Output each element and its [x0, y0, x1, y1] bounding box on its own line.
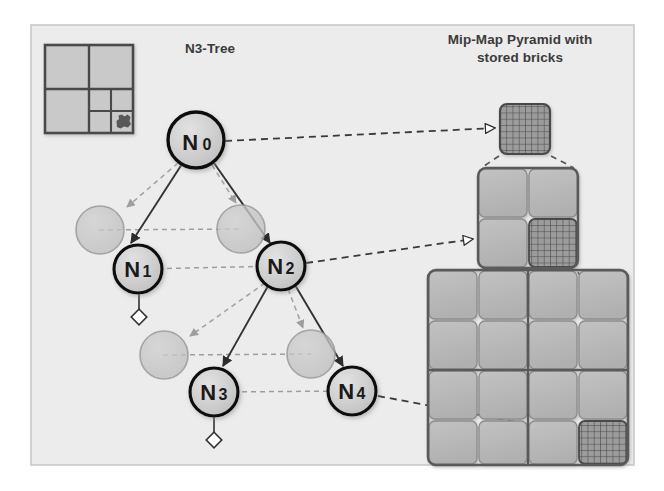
ghost-node-2	[217, 205, 265, 253]
pyramid-level-1-cell-10	[529, 169, 577, 217]
ghost-node-3	[140, 331, 188, 379]
left-panel-title: N3-Tree	[185, 41, 236, 56]
pyramid-level-0-brick	[500, 104, 550, 154]
quadtree-thumbnail-icon	[45, 45, 133, 133]
ghost-node-4	[287, 330, 335, 378]
pyramid-level-2-cell-23	[529, 421, 577, 464]
pyramid-level-2-cell-13	[479, 421, 527, 464]
tree-node-n1-sublabel: 1	[143, 263, 152, 280]
pyramid-level-2-cell-11	[479, 321, 527, 369]
pyramid-level-1-cell-01	[479, 219, 527, 267]
tree-node-n4-sublabel: 4	[357, 385, 366, 402]
pyramid-level-2[interactable]	[428, 270, 628, 465]
tree-node-n2-sublabel: 2	[286, 260, 295, 277]
pyramid-level-2-brick-cell	[579, 421, 627, 464]
tree-node-n2-label: N	[267, 254, 283, 279]
figure-root: N3-Tree Mip-Map Pyramid with stored bric…	[0, 0, 664, 491]
quadtree-blob-shape	[117, 115, 132, 129]
ghost-node-1	[76, 206, 124, 254]
right-panel-title-line1: Mip-Map Pyramid with	[448, 32, 593, 47]
pyramid-level-2-cell-03	[429, 421, 477, 464]
pyramid-level-2-cell-12	[479, 371, 527, 419]
pyramid-level-0[interactable]	[500, 104, 550, 154]
tree-node-n1-label: N	[124, 257, 140, 282]
right-panel-title-line2: stored bricks	[477, 50, 563, 65]
tree-node-n0-label: N	[182, 130, 198, 155]
pyramid-level-2-cell-00	[429, 271, 477, 319]
pyramid-level-2-cell-32	[579, 371, 627, 419]
pyramid-level-2-cell-21	[529, 321, 577, 369]
pyramid-level-1-brick-cell	[529, 219, 577, 267]
pyramid-level-1-cell-00	[479, 169, 527, 217]
pyramid-level-2-cell-30	[579, 271, 627, 319]
pyramid-level-2-cell-31	[579, 321, 627, 369]
tree-node-n3-sublabel: 3	[219, 386, 228, 403]
tree-node-n4-label: N	[338, 379, 354, 404]
pyramid-level-2-cell-10	[479, 271, 527, 319]
tree-node-n3-label: N	[200, 380, 216, 405]
tree-node-n0-sublabel: 0	[203, 136, 212, 153]
pyramid-level-2-cell-01	[429, 321, 477, 369]
pyramid-level-2-cell-22	[529, 371, 577, 419]
pyramid-level-2-cell-02	[429, 371, 477, 419]
pyramid-level-2-cell-20	[529, 271, 577, 319]
